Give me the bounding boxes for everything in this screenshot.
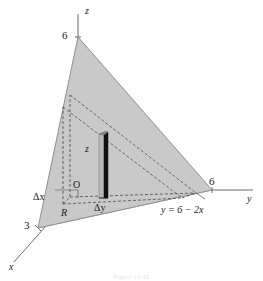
z-axis-label: z <box>85 6 89 16</box>
y-axis-tick-label-6: 6 <box>209 176 215 187</box>
column-left-face <box>99 134 104 198</box>
region-R-label: R <box>61 208 67 218</box>
delta-y-label: Δy <box>94 203 105 213</box>
z-axis-tick-label-6: 6 <box>62 30 68 41</box>
plane-surface-triangle <box>38 37 212 228</box>
column-right-face <box>104 132 108 198</box>
y-axis-label: y <box>247 194 251 204</box>
x-axis-label: x <box>9 262 13 272</box>
column-height-z-label: z <box>85 144 89 154</box>
figure-caption: Figure 14-12 <box>0 274 263 280</box>
x-axis-tick-label-3: 3 <box>24 220 30 231</box>
delta-x-label: Δx <box>33 192 44 202</box>
diagram-canvas <box>0 0 263 281</box>
plane-equation-leader <box>196 193 205 199</box>
figure-container: z 6 y 6 x 3 O Δx Δy R z y = 6 − 2x Figur… <box>0 0 263 281</box>
plane-equation-label: y = 6 − 2x <box>161 205 203 215</box>
origin-label: O <box>73 180 80 190</box>
